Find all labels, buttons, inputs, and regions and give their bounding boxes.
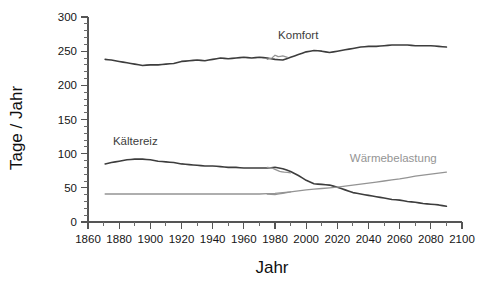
series-label: Kältereiz <box>113 135 158 147</box>
x-axis-title: Jahr <box>255 258 288 277</box>
series-labels: KomfortKältereizWärmebelastung <box>113 29 437 164</box>
x-tick-label: 1920 <box>169 233 195 245</box>
y-tick-label: 100 <box>58 148 77 160</box>
y-tick-label: 250 <box>58 45 77 57</box>
y-tick-label: 300 <box>58 11 77 23</box>
x-tick-label: 1980 <box>262 233 288 245</box>
x-tick-label: 1860 <box>75 233 101 245</box>
x-tick-label: 2020 <box>325 233 351 245</box>
series-label: Komfort <box>278 29 319 41</box>
x-tick-label: 1900 <box>138 233 164 245</box>
y-axis-title: Tage / Jahr <box>7 86 26 170</box>
y-tick-label: 50 <box>64 182 77 194</box>
x-tick-label: 2080 <box>418 233 444 245</box>
series-line <box>105 172 446 194</box>
chart-figure: 0501001502002503001860188019001920194019… <box>0 0 491 281</box>
series-line <box>105 159 446 206</box>
x-tick-label: 1960 <box>231 233 257 245</box>
line-chart: 0501001502002503001860188019001920194019… <box>0 0 491 281</box>
y-tick-label: 200 <box>58 79 77 91</box>
data-series <box>105 45 446 206</box>
x-tick-label: 2060 <box>387 233 413 245</box>
x-tick-label: 2040 <box>356 233 382 245</box>
x-tick-label: 2000 <box>293 233 319 245</box>
y-tick-label: 0 <box>71 216 77 228</box>
x-tick-label: 2100 <box>449 233 475 245</box>
x-tick-label: 1940 <box>200 233 226 245</box>
series-label: Wärmebelastung <box>350 152 437 164</box>
x-tick-label: 1880 <box>106 233 132 245</box>
y-tick-label: 150 <box>58 114 77 126</box>
